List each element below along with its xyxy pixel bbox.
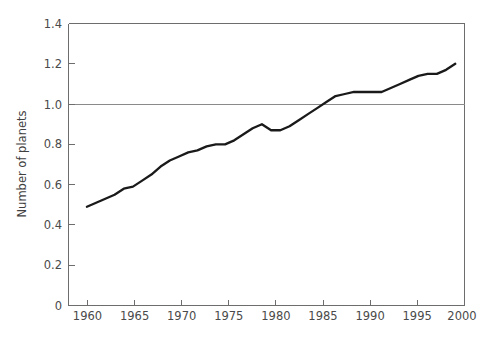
y-tick-label-1.4: 1.4 — [44, 17, 62, 31]
y-axis-title: Number of planets — [15, 110, 29, 217]
x-tick-label-1960: 1960 — [73, 309, 102, 323]
y-tick-label-0.8: 0.8 — [44, 137, 62, 151]
y-axis-ticks — [69, 24, 75, 306]
y-tick-label-0.4: 0.4 — [44, 218, 62, 232]
x-tick-label-1995: 1995 — [403, 309, 432, 323]
x-tick-label-2000: 2000 — [447, 309, 476, 323]
y-tick-label-1.0: 1.0 — [44, 98, 62, 112]
x-axis-ticks — [88, 300, 465, 306]
y-tick-label-0.2: 0.2 — [44, 258, 62, 272]
x-tick-label-1970: 1970 — [167, 309, 196, 323]
x-tick-label-1980: 1980 — [261, 309, 290, 323]
x-tick-label-1990: 1990 — [355, 309, 384, 323]
data-series-group — [87, 64, 455, 207]
y-tick-label-0.6: 0.6 — [44, 178, 62, 192]
x-tick-label-1985: 1985 — [308, 309, 337, 323]
y-tick-labels: 0 0.2 0.4 0.6 0.8 1.0 1.2 1.4 — [44, 17, 62, 313]
figure-container: 0 0.2 0.4 0.6 0.8 1.0 1.2 1.4 1960 1965 … — [0, 0, 484, 341]
x-tick-labels: 1960 1965 1970 1975 1980 1985 1990 1995 … — [73, 309, 477, 323]
data-line-number-of-planets — [87, 64, 455, 207]
y-tick-label-1.2: 1.2 — [44, 57, 62, 71]
y-axis-title-group: Number of planets — [15, 110, 29, 217]
x-tick-label-1965: 1965 — [120, 309, 149, 323]
x-tick-label-1975: 1975 — [214, 309, 243, 323]
line-chart: 0 0.2 0.4 0.6 0.8 1.0 1.2 1.4 1960 1965 … — [0, 0, 484, 341]
plot-frame — [69, 24, 465, 306]
y-tick-label-0: 0 — [55, 299, 62, 313]
